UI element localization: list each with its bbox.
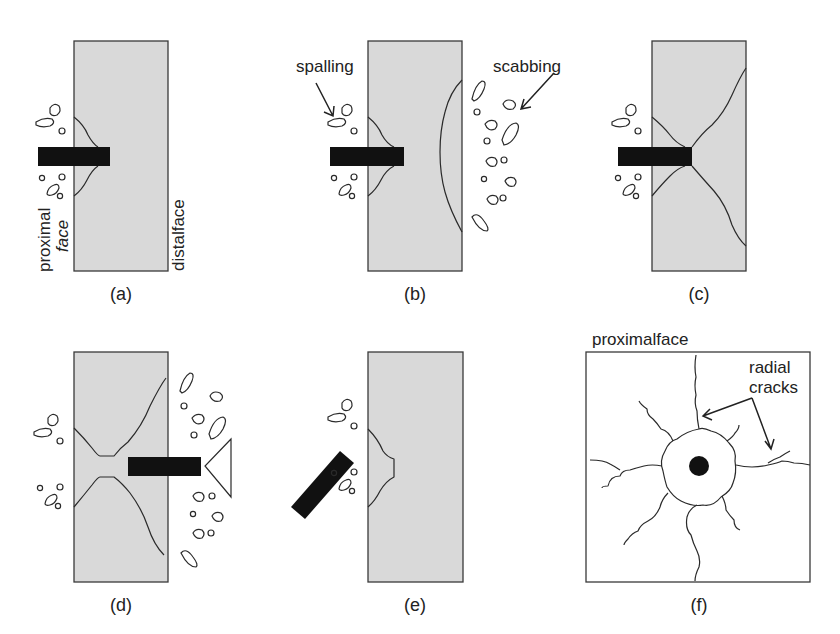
projectile <box>330 147 404 166</box>
impact-damage-diagram: proximal face distalface (a) spalling <box>0 0 840 634</box>
caption-c: (c) <box>689 284 710 304</box>
panel-d: (d) <box>34 352 231 615</box>
proximal-face-label: proximalface <box>592 330 688 349</box>
caption-f: (f) <box>691 595 708 615</box>
caption-d: (d) <box>110 595 132 615</box>
impact-hole <box>689 456 709 476</box>
caption-a: (a) <box>110 284 132 304</box>
panel-b: spalling scabbing (b) <box>296 41 561 304</box>
scabbing-label: scabbing <box>493 57 561 76</box>
caption-e: (e) <box>404 595 426 615</box>
proximal-face-label: proximal <box>35 208 54 272</box>
panel-e: (e) <box>291 352 463 615</box>
scab-fragments <box>472 81 519 231</box>
proximal-face-label-2: face <box>53 220 72 252</box>
panel-c: (c) <box>612 41 746 304</box>
projectile <box>128 457 201 476</box>
spalling-arrow <box>316 83 334 116</box>
panel-f: proximalface radial cracks (f) <box>586 330 810 615</box>
spalling-label: spalling <box>296 57 354 76</box>
panel-a: proximal face distalface (a) <box>35 41 188 304</box>
scabbing-arrow <box>521 73 554 109</box>
radial-cracks-label-1: radial <box>749 358 791 377</box>
ricochet-projectile <box>291 451 354 519</box>
projectile <box>38 147 110 166</box>
caption-b: (b) <box>404 284 426 304</box>
spall-fragments <box>34 414 63 508</box>
target-block <box>368 352 463 582</box>
distal-face-label: distalface <box>169 199 188 271</box>
projectile <box>618 147 692 166</box>
radial-cracks-label-2: cracks <box>749 378 798 397</box>
exit-plug <box>205 439 231 497</box>
